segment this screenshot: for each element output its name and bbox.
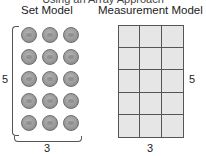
measurement-model-heading: Measurement Model xyxy=(98,4,203,16)
coin-icon xyxy=(21,93,37,109)
coin-icon xyxy=(42,115,58,131)
coin-icon xyxy=(42,49,58,65)
coin-icon xyxy=(21,71,37,87)
grid-cell xyxy=(140,93,161,115)
coin-icon xyxy=(21,115,37,131)
grid-cell xyxy=(162,48,183,70)
grid-cell xyxy=(119,115,140,137)
measurement-row-count-label: 5 xyxy=(189,73,195,85)
grid-cell xyxy=(140,115,161,137)
grid-cell xyxy=(140,48,161,70)
measurement-grid xyxy=(118,25,184,138)
set-col-count-label: 3 xyxy=(44,142,50,154)
grid-cell xyxy=(162,93,183,115)
grid-cell xyxy=(140,26,161,48)
grid-cell xyxy=(119,26,140,48)
set-row-count-label: 5 xyxy=(2,73,8,85)
set-model-heading: Set Model xyxy=(21,4,73,16)
grid-cell xyxy=(162,70,183,92)
row-brace xyxy=(12,26,19,136)
coin-icon xyxy=(63,93,79,109)
grid-cell xyxy=(162,115,183,137)
grid-cell xyxy=(119,48,140,70)
coin-icon xyxy=(42,71,58,87)
grid-cell xyxy=(140,70,161,92)
grid-cell xyxy=(162,26,183,48)
coin-icon xyxy=(63,27,79,43)
measurement-col-count-label: 3 xyxy=(147,142,153,154)
coin-icon xyxy=(42,93,58,109)
coin-icon xyxy=(63,71,79,87)
grid-cell xyxy=(119,70,140,92)
grid-cell xyxy=(119,93,140,115)
coin-icon xyxy=(42,27,58,43)
coin-icon xyxy=(21,49,37,65)
coin-icon xyxy=(63,115,79,131)
coin-icon xyxy=(63,49,79,65)
coin-icon xyxy=(21,27,37,43)
